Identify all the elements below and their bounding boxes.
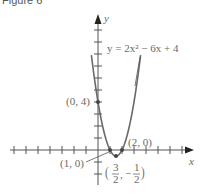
point-0-4 [96, 100, 100, 104]
svg-text:1: 1 [134, 161, 140, 173]
svg-text:3: 3 [113, 161, 119, 173]
svg-text:): ) [141, 164, 145, 180]
point-2-0 [120, 148, 124, 152]
svg-text:(: ( [105, 164, 109, 180]
label-0-4: (0, 4) [66, 95, 90, 108]
point-1-0 [108, 148, 112, 152]
label-1-0: (1, 0) [60, 157, 84, 170]
y-axis-label: y [103, 12, 109, 24]
equation-label: y = 2x² − 6x + 4 [107, 42, 179, 54]
x-axis [10, 146, 194, 154]
parabola-chart: y x y = 2x² − 6x + 4 (0, 4) (2, 0) (1, 0… [0, 0, 203, 194]
svg-text:2: 2 [113, 173, 119, 185]
svg-text:2: 2 [134, 173, 140, 185]
vertex-label: ( 3 2 , − 1 2 ) [105, 161, 145, 185]
svg-text:−: − [125, 167, 131, 179]
svg-text:,: , [120, 168, 123, 180]
label-2-0: (2, 0) [128, 136, 152, 149]
vertex-point [114, 154, 118, 158]
x-axis-label: x [188, 155, 194, 167]
